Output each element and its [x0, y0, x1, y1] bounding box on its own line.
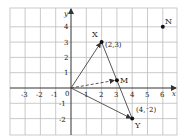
y-tick: 3	[64, 39, 68, 47]
x-tick: -3	[21, 91, 28, 99]
x-axis-label: x	[172, 90, 176, 98]
label-X: X	[92, 30, 98, 39]
y-tick: -1	[59, 100, 66, 108]
y-axis-label: y	[63, 10, 69, 18]
axes	[10, 9, 176, 135]
x-tick: 5	[145, 91, 149, 99]
y-tick: 2	[64, 54, 68, 62]
vector-OM	[71, 81, 114, 89]
x-tick: 4	[130, 91, 135, 99]
point-X	[100, 40, 104, 44]
grid	[10, 8, 177, 135]
x-tick: 6	[160, 91, 165, 99]
point-Y	[130, 117, 134, 121]
y-tick: -2	[59, 116, 66, 124]
coordinate-diagram: x y 0 -3 -2 -1 1 2 3 4 5 6 -2 -1 1 2 3 4…	[0, 0, 181, 139]
point-M	[115, 78, 119, 82]
x-tick: -1	[51, 91, 58, 99]
y-tick: 1	[64, 69, 68, 77]
label-Y: Y	[134, 121, 141, 130]
label-M: M	[120, 76, 128, 85]
x-tick: 3	[114, 91, 118, 99]
x-tick: -2	[36, 91, 43, 99]
origin-label: 0	[65, 90, 69, 98]
y-tick: 4	[64, 23, 69, 31]
vector-OX	[71, 43, 101, 88]
x-tick: 2	[99, 91, 103, 99]
label-N: N	[165, 17, 172, 26]
coord-X: (2,3)	[105, 41, 122, 49]
coord-Y: (4,⁻2)	[136, 106, 157, 114]
